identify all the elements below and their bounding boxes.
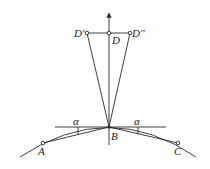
label-a: A (37, 145, 45, 157)
label-d: D (111, 34, 120, 46)
label-alpha-right: α (134, 115, 140, 127)
label-c: C (174, 145, 182, 157)
chord-b-a (43, 127, 109, 143)
segment-b-d-double-prime (109, 33, 130, 127)
point-d-prime (85, 31, 89, 35)
label-d-double-prime: D'' (131, 27, 145, 39)
chord-b-c (109, 127, 178, 143)
geometry-diagram: D' D D'' B A C α α (0, 0, 210, 169)
segment-b-d-prime (87, 33, 109, 127)
label-b: B (111, 130, 118, 142)
point-b (107, 125, 110, 128)
label-d-prime: D' (73, 27, 85, 39)
point-d (107, 31, 111, 35)
label-alpha-left: α (73, 115, 79, 127)
